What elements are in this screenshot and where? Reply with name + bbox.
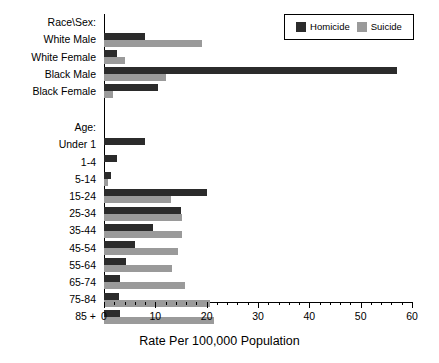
category-label: 25-34: [69, 208, 96, 219]
category-label: White Female: [31, 52, 96, 63]
x-tick-minor: [391, 302, 392, 305]
bar-homicide: [104, 138, 145, 145]
bar-suicide: [104, 91, 113, 98]
bar-homicide: [104, 224, 153, 231]
x-tick-minor: [196, 302, 197, 305]
bar-suicide: [104, 179, 108, 186]
bar-homicide: [104, 172, 111, 179]
x-tick-major: [309, 302, 310, 308]
legend-label-homicide: Homicide: [310, 22, 350, 32]
category-label: 65-74: [69, 277, 96, 288]
bar-suicide: [104, 196, 171, 203]
x-tick-minor: [289, 302, 290, 305]
x-tick-major: [155, 302, 156, 308]
bar-suicide: [104, 40, 202, 47]
bar-homicide: [104, 33, 145, 40]
group-header-label: Race\Sex:: [48, 17, 96, 28]
x-tick-major: [361, 302, 362, 308]
legend-item-homicide: Homicide: [296, 22, 350, 32]
bar-suicide: [104, 214, 182, 221]
legend-swatch-homicide-icon: [296, 22, 306, 32]
bar-suicide: [104, 248, 178, 255]
x-tick-minor: [371, 302, 372, 305]
bar-homicide: [104, 84, 158, 91]
x-tick-label: 30: [243, 310, 273, 322]
x-tick-minor: [145, 302, 146, 305]
x-tick-major: [258, 302, 259, 308]
bar-suicide: [104, 74, 166, 81]
category-label: Under 1: [59, 139, 96, 150]
x-tick-label: 40: [294, 310, 324, 322]
x-tick-label: 60: [397, 310, 427, 322]
x-tick-label: 0: [89, 310, 119, 322]
category-label: 75-84: [69, 294, 96, 305]
x-tick-minor: [227, 302, 228, 305]
legend-swatch-suicide-icon: [357, 22, 367, 32]
category-label: 45-54: [69, 243, 96, 254]
category-label: White Male: [43, 34, 96, 45]
bar-homicide: [104, 189, 207, 196]
x-tick-minor: [279, 302, 280, 305]
x-tick-minor: [166, 302, 167, 305]
bar-suicide: [104, 300, 210, 307]
x-tick-minor: [125, 302, 126, 305]
bar-homicide: [104, 155, 117, 162]
category-label: 1-4: [81, 157, 96, 168]
bar-homicide: [104, 241, 135, 248]
x-tick-minor: [268, 302, 269, 305]
category-label: Black Female: [32, 86, 96, 97]
x-tick-minor: [237, 302, 238, 305]
category-label: Black Male: [45, 69, 96, 80]
x-tick-minor: [217, 302, 218, 305]
category-label: 15-24: [69, 191, 96, 202]
x-tick-minor: [350, 302, 351, 305]
bar-homicide: [104, 50, 117, 57]
bar-suicide: [104, 265, 172, 272]
x-tick-minor: [135, 302, 136, 305]
x-tick-label: 10: [140, 310, 170, 322]
bar-homicide: [104, 258, 126, 265]
group-header-label: Age:: [74, 122, 96, 133]
x-tick-major: [207, 302, 208, 308]
x-tick-major: [412, 302, 413, 308]
x-tick-minor: [299, 302, 300, 305]
x-tick-minor: [320, 302, 321, 305]
bar-homicide: [104, 275, 120, 282]
category-label: 55-64: [69, 260, 96, 271]
legend-item-suicide: Suicide: [357, 22, 402, 32]
x-tick-minor: [186, 302, 187, 305]
bar-homicide: [104, 67, 397, 74]
bar-suicide: [104, 57, 125, 64]
x-tick-minor: [340, 302, 341, 305]
legend-label-suicide: Suicide: [371, 22, 402, 32]
bar-homicide: [104, 293, 119, 300]
x-tick-label: 20: [192, 310, 222, 322]
x-axis-title: Rate Per 100,000 Population: [0, 334, 439, 348]
category-label: 5-14: [75, 174, 96, 185]
category-label: 35-44: [69, 225, 96, 236]
x-tick-minor: [381, 302, 382, 305]
x-tick-minor: [330, 302, 331, 305]
x-tick-minor: [114, 302, 115, 305]
plot-area: [104, 14, 412, 302]
x-tick-major: [104, 302, 105, 308]
x-tick-minor: [176, 302, 177, 305]
bar-chart: Race\Sex:White MaleWhite FemaleBlack Mal…: [0, 0, 439, 363]
bar-suicide: [104, 282, 185, 289]
bar-homicide: [104, 207, 181, 214]
bar-suicide: [104, 231, 182, 238]
x-tick-label: 50: [346, 310, 376, 322]
legend: Homicide Suicide: [284, 14, 414, 40]
x-tick-minor: [402, 302, 403, 305]
x-tick-minor: [248, 302, 249, 305]
